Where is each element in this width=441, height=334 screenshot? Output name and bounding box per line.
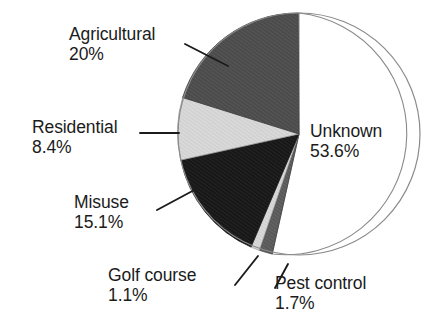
pie-chart-graphic	[0, 0, 441, 334]
slice-label-golf-course: Golf course 1.1%	[108, 265, 196, 305]
slice-label-misuse: Misuse 15.1%	[74, 192, 129, 232]
slice-label-pest-control-name: Pest control	[275, 273, 366, 293]
slice-label-pest-control-value: 1.7%	[275, 293, 366, 313]
slice-label-unknown-name: Unknown	[310, 121, 382, 141]
slice-label-unknown-value: 53.6%	[310, 141, 382, 161]
slice-label-agricultural-name: Agricultural	[69, 24, 155, 44]
slice-label-misuse-name: Misuse	[74, 192, 129, 212]
slice-label-unknown: Unknown 53.6%	[310, 121, 382, 161]
slice-label-golf-course-name: Golf course	[108, 265, 196, 285]
pie-chart: Agricultural 20% Residential 8.4% Misuse…	[0, 0, 441, 334]
slice-label-agricultural: Agricultural 20%	[69, 24, 155, 64]
leader-line-misuse	[157, 188, 198, 210]
leader-line-golf-course	[235, 256, 258, 285]
slice-label-residential-name: Residential	[32, 117, 117, 137]
slice-label-agricultural-value: 20%	[69, 44, 155, 64]
slice-label-pest-control: Pest control 1.7%	[275, 273, 366, 313]
slice-label-golf-course-value: 1.1%	[108, 285, 196, 305]
slice-label-residential-value: 8.4%	[32, 137, 117, 157]
slice-label-residential: Residential 8.4%	[32, 117, 117, 157]
slice-label-misuse-value: 15.1%	[74, 212, 129, 232]
